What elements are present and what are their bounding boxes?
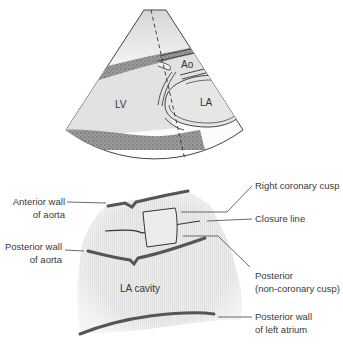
label-la-cavity: LA cavity	[120, 283, 160, 294]
label-posterior-cusp-2: (non-coronary cusp)	[255, 283, 340, 294]
mmode-trace: LA cavity	[78, 191, 242, 334]
label-posterior-wall-aorta-2: of aorta	[30, 254, 63, 265]
label-closure-line: Closure line	[255, 213, 305, 224]
aortic-cusp-box	[143, 208, 177, 247]
label-posterior-la-wall-1: Posterior wall	[255, 311, 312, 322]
label-anterior-wall-aorta-1: Anterior wall	[13, 196, 65, 207]
label-anterior-wall-aorta-2: of aorta	[33, 209, 66, 220]
echo-sector: Ao LV LA	[60, 10, 250, 160]
label-lv: LV	[115, 99, 127, 110]
label-posterior-la-wall-2: of left atrium	[255, 324, 307, 335]
leader-anterior-wall	[67, 202, 106, 203]
leader-posterior-aortic-wall	[65, 250, 84, 251]
label-posterior-cusp-1: Posterior	[255, 270, 293, 281]
echo-diagram: Ao LV LA LA cavity Anterior wall of aort…	[0, 0, 343, 344]
label-right-coronary-cusp: Right coronary cusp	[255, 180, 339, 191]
label-la: LA	[200, 97, 213, 108]
label-ao: Ao	[181, 59, 194, 70]
label-posterior-wall-aorta-1: Posterior wall	[5, 241, 62, 252]
